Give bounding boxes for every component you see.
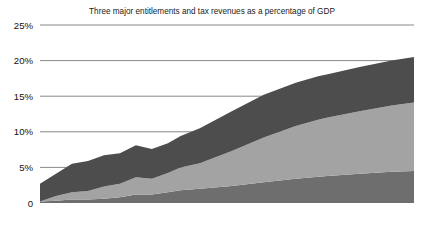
- y-axis-tick-label: 10%: [14, 126, 34, 137]
- chart-container: Three major entitlements and tax revenue…: [0, 0, 424, 229]
- y-axis-tick-label: 5%: [19, 162, 33, 173]
- y-axis-tick-label: 25%: [14, 20, 34, 31]
- chart-title: Three major entitlements and tax revenue…: [89, 7, 335, 16]
- y-axis-tick-label: 0: [28, 198, 33, 209]
- y-axis-tick-label: 15%: [14, 91, 34, 102]
- entitlements-gdp-area-chart: Three major entitlements and tax revenue…: [0, 0, 424, 229]
- y-axis-tick-label: 20%: [14, 55, 34, 66]
